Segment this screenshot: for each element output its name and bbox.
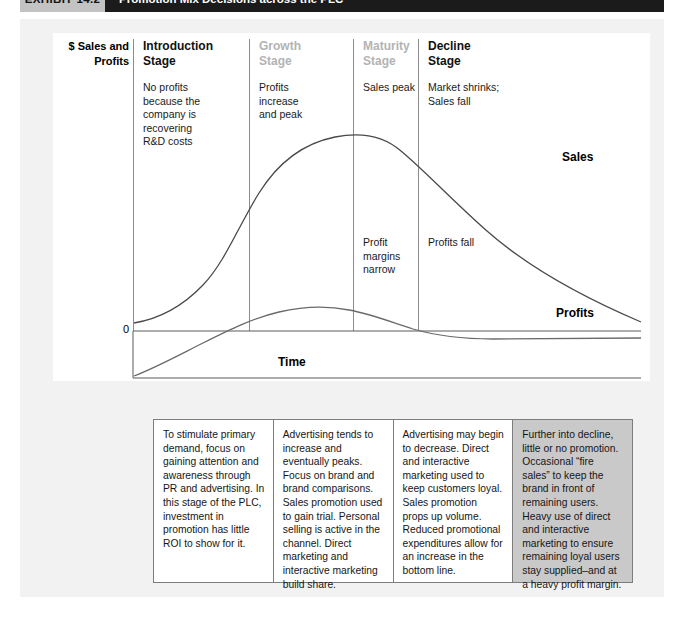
table-cell-decline: Further into decline, little or no promo… [513, 420, 632, 582]
table-cell-maturity: Advertising may begin to decrease. Direc… [394, 420, 514, 582]
sales-curve [134, 135, 641, 323]
profits-curve [134, 307, 641, 376]
exhibit-panel: $ Sales and Profits 0 Introduction Stage… [20, 19, 664, 597]
plc-chart: $ Sales and Profits 0 Introduction Stage… [53, 33, 650, 381]
exhibit-number-badge: EXHIBIT 14.2 [20, 0, 105, 12]
table-cell-growth: Advertising tends to increase and eventu… [274, 420, 394, 582]
exhibit-header: EXHIBIT 14.2 Promotion Mix Decisions acr… [20, 0, 664, 12]
promotion-strategy-table: To stimulate primary demand, focus on ga… [153, 419, 633, 583]
exhibit-title: Promotion Mix Decisions across the PLC [105, 0, 664, 12]
table-cell-introduction: To stimulate primary demand, focus on ga… [154, 420, 274, 582]
plc-curves-svg [53, 33, 650, 381]
